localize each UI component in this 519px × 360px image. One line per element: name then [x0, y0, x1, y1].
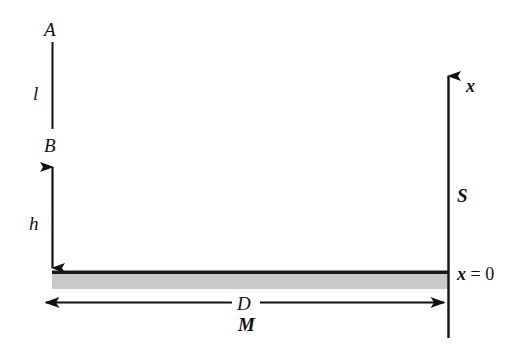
origin-variable: x	[457, 264, 466, 284]
label-origin-x-equals-zero: x = 0	[457, 265, 494, 283]
label-point-b: B	[44, 136, 56, 155]
gray-slab	[52, 271, 448, 290]
label-surface-s: S	[457, 186, 468, 205]
origin-equals-sign: =	[466, 264, 485, 284]
label-point-a: A	[44, 20, 56, 39]
label-length-l: l	[33, 84, 38, 103]
label-axis-x: x	[466, 77, 475, 95]
label-medium-m: M	[238, 315, 255, 334]
diagram-canvas-container: A l B h D M x S x = 0	[0, 0, 519, 360]
origin-value: 0	[485, 264, 494, 284]
diagram-vector-layer	[0, 0, 519, 360]
label-height-h: h	[29, 214, 39, 233]
label-width-d: D	[237, 294, 251, 313]
